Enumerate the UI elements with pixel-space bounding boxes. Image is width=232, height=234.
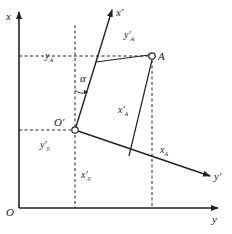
label-y-a: yA [44,50,53,63]
y-prime-axis [75,130,210,176]
point-o-prime [72,127,78,133]
label-y: y [211,213,217,225]
x-prime-axis [75,10,112,130]
label-alpha: α [80,72,86,84]
coordinate-transform-diagram: x y O x' y' O' A α yA y'A x'A xA y'0 x'0 [0,0,232,234]
label-y-prime-a: y'A [123,29,135,42]
point-a [149,53,155,59]
label-y-prime: y' [213,170,222,182]
label-x: x [5,10,11,22]
projection-a-to-y-prime [129,60,152,156]
label-y-prime-0: y'0 [39,139,50,152]
label-x-a: xA [159,144,168,157]
label-o-prime: O' [54,116,65,128]
label-point-a: A [157,50,165,62]
label-x-prime: x' [115,6,124,18]
label-x-prime-a: x'A [117,104,129,117]
label-origin: O [6,206,14,218]
label-x-prime-0: x'0 [80,169,91,182]
